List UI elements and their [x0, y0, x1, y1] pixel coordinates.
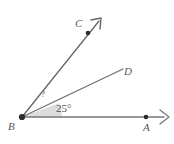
point-label-d: D	[124, 66, 132, 77]
point-c-dot	[86, 31, 91, 36]
angle-measure-dbc-unknown: ?	[41, 90, 45, 99]
ray-bc-arrowhead	[91, 18, 101, 29]
point-label-a: A	[143, 122, 150, 133]
angle-measure-abd: 25°	[56, 103, 71, 114]
point-b-dot	[19, 114, 25, 120]
angle-diagram-figure: C D A B 25° ?	[0, 0, 174, 144]
point-label-c: C	[75, 18, 82, 29]
point-label-b: B	[8, 121, 15, 132]
point-a-dot	[144, 115, 149, 120]
ray-bd	[22, 69, 123, 117]
